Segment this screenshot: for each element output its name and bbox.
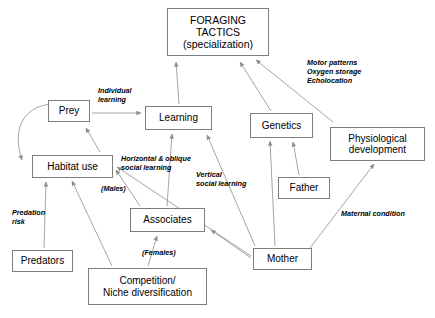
node-competition-niche-diversification-label: Competition/ Niche diversification <box>103 275 192 298</box>
node-physiological-development-label: Physiological development <box>348 133 406 156</box>
edge-learning-to-foraging <box>176 62 179 104</box>
edge-mother-to-associates <box>211 230 251 258</box>
node-learning[interactable]: Learning <box>145 106 212 130</box>
edge-prey-to-habitat-loop <box>18 104 50 160</box>
edge-label-females: (Females) <box>142 248 176 257</box>
node-father-label: Father <box>290 182 319 194</box>
node-associates-label: Associates <box>143 214 191 226</box>
edge-label-individual-learning: Individual learning <box>98 86 132 104</box>
edge-label-males: (Males) <box>101 184 126 193</box>
edge-genetics-to-foraging <box>240 62 271 111</box>
node-mother[interactable]: Mother <box>253 248 312 270</box>
edge-label-maternal-condition: Maternal condition <box>341 209 405 218</box>
node-predators[interactable]: Predators <box>12 250 73 272</box>
diagram-canvas: FORAGING TACTICS (specialization) Prey L… <box>0 0 435 318</box>
node-predators-label: Predators <box>21 255 64 267</box>
edge-label-horizontal-oblique-social-learning: Horizontal & oblique social learning <box>121 154 191 172</box>
node-foraging-tactics-label: FORAGING TACTICS (specialization) <box>183 14 253 50</box>
edge-label-vertical-social-learning: Vertical social learning <box>196 170 246 188</box>
node-foraging-tactics[interactable]: FORAGING TACTICS (specialization) <box>167 8 269 56</box>
edge-label-predation-risk: Predation risk <box>12 208 45 226</box>
node-habitat-use-label: Habitat use <box>47 161 98 173</box>
edge-mother-to-genetics <box>270 141 275 246</box>
node-genetics-label: Genetics <box>262 120 301 132</box>
edge-mother-to-learning <box>207 135 255 246</box>
node-associates[interactable]: Associates <box>130 208 205 232</box>
node-mother-label: Mother <box>267 253 298 265</box>
edge-father-to-genetics <box>293 142 299 175</box>
node-father[interactable]: Father <box>278 177 330 199</box>
node-habitat-use[interactable]: Habitat use <box>32 155 113 178</box>
node-learning-label: Learning <box>159 112 198 124</box>
node-prey-label: Prey <box>59 105 80 117</box>
edge-label-motor-patterns: Motor patterns Oxygen storage Echolocati… <box>307 58 361 85</box>
node-genetics[interactable]: Genetics <box>250 113 313 138</box>
edge-competition-to-habitat <box>72 181 112 266</box>
node-prey[interactable]: Prey <box>48 100 90 122</box>
edge-habitat-to-prey <box>86 128 100 152</box>
node-physiological-development[interactable]: Physiological development <box>330 127 425 161</box>
node-competition-niche-diversification[interactable]: Competition/ Niche diversification <box>88 268 207 305</box>
